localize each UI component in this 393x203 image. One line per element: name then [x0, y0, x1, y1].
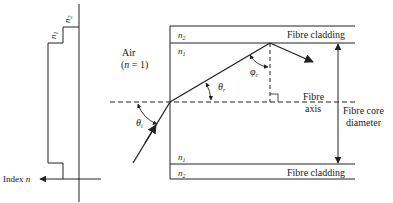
core-diameter-label-2: diameter	[346, 117, 382, 128]
profile-n2-label: n2	[62, 16, 73, 24]
theta-r-arc	[206, 83, 211, 100]
step-index-profile	[48, 27, 79, 179]
air-label: Air	[122, 47, 136, 58]
fibre-axis-label-1: Fibre	[303, 91, 325, 102]
bottom-cladding-label: Fibre cladding	[287, 167, 345, 178]
reflected-ray	[270, 43, 313, 62]
air-index-label: (n = 1)	[121, 59, 148, 71]
optical-fibre-diagram: n2 n1 Index n Air	[0, 0, 393, 203]
theta-i-label: θi	[136, 117, 143, 129]
index-profile: n2 n1 Index n	[3, 4, 101, 202]
bottom-cladding-n2: n2	[178, 168, 186, 179]
fibre-axis-label-2: axis	[305, 103, 321, 114]
index-axis-label: Index n	[3, 174, 31, 184]
right-angle-marker	[270, 94, 278, 102]
top-cladding-n2: n2	[178, 30, 186, 41]
profile-n1-label: n1	[48, 32, 59, 40]
incident-ray-arrow	[145, 125, 156, 143]
top-core-n1: n1	[178, 46, 186, 57]
bottom-core-n1: n1	[178, 152, 186, 163]
top-cladding-label: Fibre cladding	[287, 29, 345, 40]
theta-r-label: θr	[218, 81, 226, 93]
core-diameter-label-1: Fibre core	[343, 105, 384, 116]
phi-c-label: φc	[250, 66, 259, 78]
fibre-section: Air (n = 1) n2 n1 n1 n2 Fibre cladding F…	[110, 26, 384, 179]
